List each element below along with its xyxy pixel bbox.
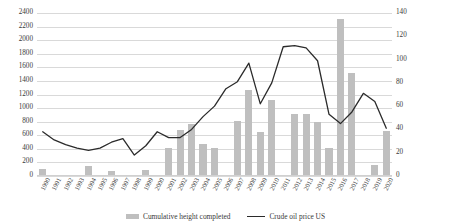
y-axis-tick-left: 2000	[19, 37, 33, 44]
x-axis-tick-label: 1994	[85, 177, 97, 192]
x-axis-tick-label: 2001	[165, 177, 177, 192]
legend-item-crude-oil-price: Crude oil price US	[247, 212, 325, 221]
y-axis-tick-left: 2400	[19, 9, 33, 16]
x-axis-tick-label: 2005	[211, 177, 223, 192]
x-axis-tick-label: 1995	[97, 177, 109, 192]
legend-item-cumulative-height: Cumulative height completed	[126, 212, 230, 221]
x-axis-tick-label: 2011	[280, 177, 292, 192]
x-axis-tick-label: 2017	[349, 177, 361, 192]
x-axis-tick-label: 2020	[383, 177, 395, 192]
legend-label-crude-oil-price: Crude oil price US	[269, 212, 325, 221]
x-axis-tick-label: 1999	[143, 177, 155, 192]
y-axis-tick-left: 1400	[19, 77, 33, 84]
line-swatch-icon	[247, 216, 265, 217]
x-axis-tick-label: 1991	[51, 177, 63, 192]
y-axis-tick-left: 1000	[19, 104, 33, 111]
y-axis-tick-left: 200	[22, 159, 33, 166]
y-axis-tick-right: 140	[396, 9, 407, 16]
x-axis-tick-label: 1997	[120, 177, 132, 192]
x-axis-tick-label: 2009	[257, 177, 269, 192]
x-axis-tick-label: 1998	[131, 177, 143, 192]
x-axis-labels: 1990199119921993199419951996199719981999…	[37, 177, 392, 207]
y-axis-tick-right: 120	[396, 33, 407, 40]
y-axis-tick-right: 40	[396, 126, 403, 133]
x-axis-tick-label: 2014	[314, 177, 326, 192]
y-axis-tick-left: 1600	[19, 64, 33, 71]
x-axis-tick-label: 2007	[234, 177, 246, 192]
left-axis: 0200400600800100012001400160018002000220…	[0, 13, 33, 176]
x-axis-tick-label: 2006	[223, 177, 235, 192]
y-axis-tick-left: 2200	[19, 23, 33, 30]
x-axis-tick-label: 2004	[200, 177, 212, 192]
legend-label-cumulative-height: Cumulative height completed	[143, 212, 230, 221]
x-axis-tick-label: 1993	[74, 177, 86, 192]
x-axis-tick-label: 2019	[372, 177, 384, 192]
x-axis-tick-label: 2008	[246, 177, 258, 192]
y-axis-tick-right: 80	[396, 79, 403, 86]
right-axis: 020406080100120140	[396, 13, 426, 176]
x-axis-tick-label: 2012	[291, 177, 303, 192]
y-axis-tick-right: 0	[396, 172, 400, 179]
y-axis-tick-right: 60	[396, 103, 403, 110]
x-axis-tick-label: 2015	[326, 177, 338, 192]
y-axis-tick-right: 20	[396, 149, 403, 156]
x-axis-tick-label: 2000	[154, 177, 166, 192]
x-axis-tick-label: 1990	[40, 177, 52, 192]
y-axis-tick-left: 1800	[19, 50, 33, 57]
y-axis-tick-left: 600	[22, 132, 33, 139]
x-axis-tick-label: 2010	[269, 177, 281, 192]
line-series-crude-oil-price	[37, 13, 392, 176]
chart-legend: Cumulative height completed Crude oil pr…	[0, 209, 451, 223]
chart-container: 0200400600800100012001400160018002000220…	[0, 0, 451, 224]
y-axis-tick-left: 800	[22, 118, 33, 125]
x-axis-tick-label: 1996	[108, 177, 120, 192]
y-axis-tick-left: 1200	[19, 91, 33, 98]
y-axis-tick-left: 0	[29, 172, 33, 179]
x-axis-tick-label: 1992	[62, 177, 74, 192]
y-axis-tick-left: 400	[22, 145, 33, 152]
x-axis-tick-label: 2013	[303, 177, 315, 192]
bar-swatch-icon	[126, 214, 139, 219]
y-axis-tick-right: 100	[396, 56, 407, 63]
x-axis-tick-label: 2016	[337, 177, 349, 192]
x-axis-tick-label: 2018	[360, 177, 372, 192]
x-axis-tick-label: 2003	[188, 177, 200, 192]
plot-area	[37, 13, 392, 176]
x-axis-tick-label: 2002	[177, 177, 189, 192]
